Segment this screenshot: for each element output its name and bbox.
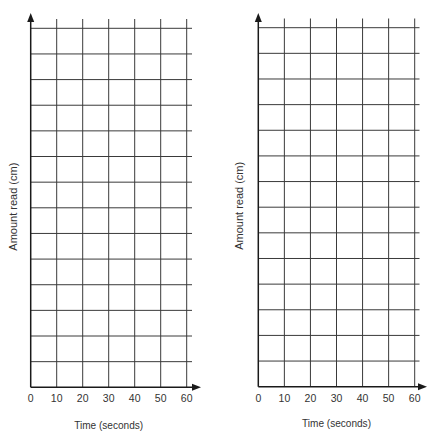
right-x-tick-20: 20 bbox=[305, 392, 317, 404]
right-x-tick-0: 0 bbox=[255, 392, 261, 404]
right-x-tick-10: 10 bbox=[279, 392, 291, 404]
left-x-tick-50: 50 bbox=[155, 392, 167, 404]
left-axes bbox=[27, 13, 201, 391]
left-chart: 0 10 20 30 40 50 60 Time (seconds) Amoun… bbox=[7, 13, 201, 431]
right-chart: 0 10 20 30 40 50 60 Time (seconds) Amoun… bbox=[233, 13, 427, 429]
left-x-tick-10: 10 bbox=[51, 392, 63, 404]
left-y-axis-arrow-icon bbox=[27, 13, 34, 22]
right-grid bbox=[258, 19, 419, 387]
right-x-tick-50: 50 bbox=[383, 392, 395, 404]
left-x-axis-arrow-icon bbox=[192, 384, 201, 391]
right-axes bbox=[255, 13, 427, 390]
left-y-axis-title: Amount read (cm) bbox=[7, 163, 19, 251]
right-x-axis-arrow-icon bbox=[418, 383, 427, 390]
right-x-tick-30: 30 bbox=[331, 392, 343, 404]
right-x-tick-labels: 0 10 20 30 40 50 60 bbox=[255, 392, 420, 404]
right-x-tick-60: 60 bbox=[409, 392, 421, 404]
right-x-tick-40: 40 bbox=[357, 392, 369, 404]
right-y-axis-title: Amount read (cm) bbox=[233, 162, 245, 250]
right-y-axis-arrow-icon bbox=[255, 13, 262, 22]
left-grid bbox=[31, 19, 192, 387]
left-x-tick-labels: 0 10 20 30 40 50 60 bbox=[28, 392, 193, 404]
left-x-tick-0: 0 bbox=[28, 392, 34, 404]
left-x-tick-60: 60 bbox=[181, 392, 193, 404]
blank-graph-sheet: 0 10 20 30 40 50 60 Time (seconds) Amoun… bbox=[0, 0, 427, 432]
left-x-tick-30: 30 bbox=[103, 392, 115, 404]
left-x-axis-title: Time (seconds) bbox=[74, 419, 143, 431]
left-x-tick-40: 40 bbox=[129, 392, 141, 404]
left-x-tick-20: 20 bbox=[77, 392, 89, 404]
right-x-axis-title: Time (seconds) bbox=[302, 417, 371, 429]
